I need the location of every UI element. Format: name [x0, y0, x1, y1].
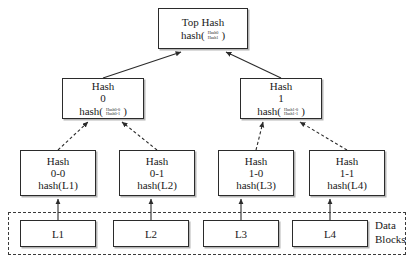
node-hash-1-1-sub: 1-1	[340, 167, 355, 179]
merkle-tree-diagram: Top Hash hash( Hash0 Hash1 ) Hash 0 hash…	[0, 0, 419, 267]
node-hash-1-1[interactable]: Hash 1-1 hash(L4)	[309, 150, 385, 196]
node-hash-0-operands: Hash0-0 Hash0-1	[106, 107, 120, 115]
node-hash-0-formula-suffix: )	[123, 105, 127, 117]
node-hash-1[interactable]: Hash 1 hash( Hash1-0 Hash1-1 )	[240, 78, 322, 119]
edge-hash00-to-hash0	[58, 122, 88, 150]
node-top-hash-formula: hash( Hash0 Hash1 )	[181, 29, 225, 41]
node-hash-0-1-sub: 0-1	[150, 167, 165, 179]
node-top-hash[interactable]: Top Hash hash( Hash0 Hash1 )	[158, 8, 248, 49]
edge-hash11-to-hash1	[300, 122, 347, 150]
node-hash-1-formula: hash( Hash1-0 Hash1-1 )	[257, 105, 305, 117]
node-top-hash-title: Top Hash	[182, 16, 224, 28]
data-block-l2[interactable]: L2	[113, 220, 189, 247]
node-hash-0-formula-prefix: hash(	[79, 105, 103, 117]
edge-hash01-to-hash0	[122, 122, 157, 150]
node-hash-1-title: Hash 1	[270, 80, 293, 105]
node-hash-0-1-title: Hash	[146, 155, 169, 167]
node-top-hash-formula-suffix: )	[221, 29, 225, 41]
edge-hash10-to-hash1	[256, 122, 263, 150]
node-hash-0[interactable]: Hash 0 hash( Hash0-0 Hash0-1 )	[62, 78, 144, 119]
data-block-l3[interactable]: L3	[203, 220, 279, 247]
node-hash-1-formula-prefix: hash(	[257, 105, 281, 117]
edge-hash0-to-top	[103, 52, 181, 78]
node-hash-0-0-formula: hash(L1)	[38, 179, 78, 191]
node-hash-0-formula: hash( Hash0-0 Hash0-1 )	[79, 105, 127, 117]
node-hash-0-0-sub: 0-0	[51, 167, 66, 179]
edge-hash1-to-top	[226, 52, 281, 78]
node-hash-0-1[interactable]: Hash 0-1 hash(L2)	[119, 150, 195, 196]
node-hash-1-0-sub: 1-0	[249, 167, 264, 179]
node-hash-0-0-title: Hash	[47, 155, 70, 167]
node-hash-1-operand-bottom: Hash1-1	[284, 111, 298, 115]
node-top-hash-operand-bottom: Hash1	[208, 35, 219, 39]
node-top-hash-formula-prefix: hash(	[181, 29, 205, 41]
data-blocks-label: Data Blocks	[375, 219, 415, 247]
node-hash-1-operands: Hash1-0 Hash1-1	[284, 107, 298, 115]
node-hash-1-1-formula: hash(L4)	[327, 179, 367, 191]
node-hash-1-0[interactable]: Hash 1-0 hash(L3)	[218, 150, 294, 196]
node-hash-0-operand-bottom: Hash0-1	[106, 111, 120, 115]
node-hash-0-0[interactable]: Hash 0-0 hash(L1)	[20, 150, 96, 196]
data-block-l4[interactable]: L4	[292, 220, 368, 247]
node-hash-1-0-formula: hash(L3)	[236, 179, 276, 191]
node-hash-1-formula-suffix: )	[301, 105, 305, 117]
data-block-l1[interactable]: L1	[20, 220, 96, 247]
node-hash-1-0-title: Hash	[245, 155, 268, 167]
node-top-hash-operands: Hash0 Hash1	[208, 31, 219, 39]
node-hash-1-1-title: Hash	[336, 155, 359, 167]
node-hash-0-1-formula: hash(L2)	[137, 179, 177, 191]
node-hash-0-title: Hash 0	[92, 80, 115, 105]
